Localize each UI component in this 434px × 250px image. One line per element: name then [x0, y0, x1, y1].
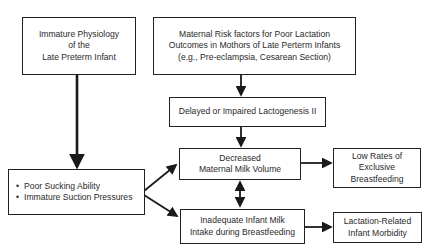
arrow-sucking-to-milk-volume: [144, 165, 176, 191]
node-text: of the: [39, 40, 119, 52]
node-text: Low Rates of: [350, 151, 403, 163]
node-maternal-risk: Maternal Risk factors for Poor Lactation…: [153, 17, 356, 75]
node-text: Maternal Risk factors for Poor Lactation: [169, 29, 340, 41]
node-text: Intake during Breastfeeding: [190, 227, 295, 239]
node-text: (e.g., Pre-eclampsia, Cesarean Section): [169, 52, 340, 64]
bullet-list: Poor Sucking Ability Immature Suction Pr…: [16, 181, 132, 204]
node-text: Infant Morbidity: [344, 228, 411, 240]
node-text: Outcomes in Mothors of Late Perterm Infa…: [169, 40, 340, 52]
node-text: Maternal Milk Volume: [199, 164, 281, 176]
node-morbidity: Lactation-Related Infant Morbidity: [333, 212, 422, 243]
node-low-rates: Low Rates of Exclusive Breastfeeding: [333, 148, 421, 188]
node-text: Late Preterm Infant: [39, 52, 119, 64]
arrow-sucking-to-intake: [144, 195, 177, 216]
node-immature-physiology: Immature Physiology of the Late Preterm …: [22, 17, 136, 75]
node-inadequate-intake: Inadequate Infant Milk Intake during Bre…: [180, 209, 305, 244]
bullet-item: Immature Suction Pressures: [16, 192, 132, 204]
node-milk-volume: Decreased Maternal Milk Volume: [179, 148, 301, 180]
node-text: Decreased: [199, 153, 281, 165]
bullet-item: Poor Sucking Ability: [16, 181, 132, 193]
node-text: Delayed or Impaired Lactogenesis II: [179, 106, 317, 118]
node-text: Inadequate Infant Milk: [190, 215, 295, 227]
node-text: Exclusive: [350, 162, 403, 174]
node-text: Immature Physiology: [39, 29, 119, 41]
node-lactogenesis: Delayed or Impaired Lactogenesis II: [169, 97, 326, 127]
node-sucking: Poor Sucking Ability Immature Suction Pr…: [8, 169, 145, 215]
node-text: Breastfeeding: [350, 174, 403, 186]
node-text: Lactation-Related: [344, 216, 411, 228]
